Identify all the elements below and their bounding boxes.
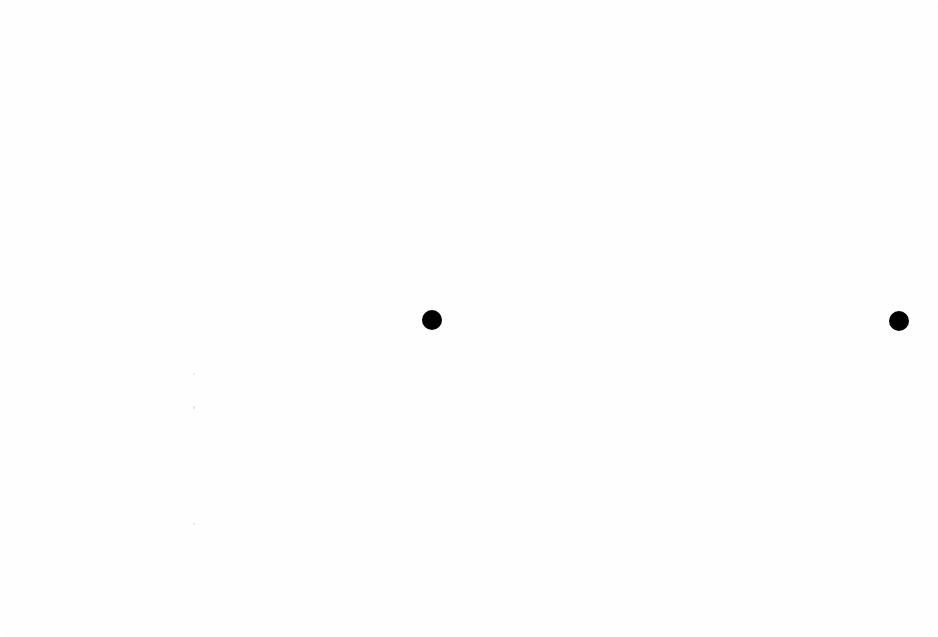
left-dot-marker xyxy=(422,310,442,330)
scan-speck xyxy=(193,522,195,525)
blank-page xyxy=(0,0,938,637)
scan-speck xyxy=(193,406,195,409)
right-dot-marker xyxy=(889,311,909,331)
scan-speck xyxy=(193,372,195,375)
